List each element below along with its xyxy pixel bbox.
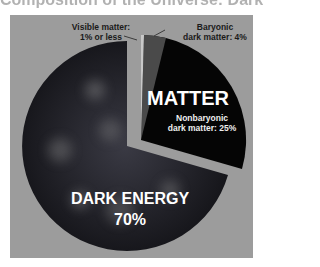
nonbaryonic-line-1: Nonbaryonic xyxy=(162,113,242,123)
matter-label: MATTER xyxy=(138,88,238,108)
visible-matter-label: Visible matter: 1% or less xyxy=(68,22,134,42)
baryonic-pointer xyxy=(154,30,165,36)
nonbaryonic-line-2: dark matter: 25% xyxy=(162,123,242,133)
baryonic-line-1: Baryonic xyxy=(180,22,250,32)
dark-energy-label: DARK ENERGY xyxy=(50,190,210,208)
visible-line-2: 1% or less xyxy=(68,32,134,42)
baryonic-line-2: dark matter: 4% xyxy=(180,32,250,42)
nonbaryonic-label: Nonbaryonic dark matter: 25% xyxy=(162,113,242,133)
visible-line-1: Visible matter: xyxy=(68,22,134,32)
baryonic-label: Baryonic dark matter: 4% xyxy=(180,22,250,42)
dark-energy-percent: 70% xyxy=(100,211,160,229)
